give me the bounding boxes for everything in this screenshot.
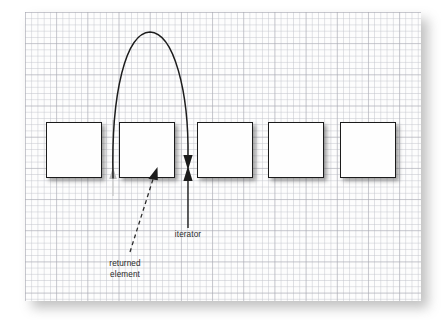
annotation-label-iterator: iterator — [158, 230, 218, 241]
returned-element-leader — [130, 167, 158, 252]
figure-root: iterator returned element — [0, 0, 447, 320]
annotation-label-returned-element: returned element — [90, 259, 160, 280]
iterator-pointer — [183, 166, 192, 228]
annotation-layer — [0, 0, 447, 320]
iterator-advance-curve — [113, 32, 193, 178]
